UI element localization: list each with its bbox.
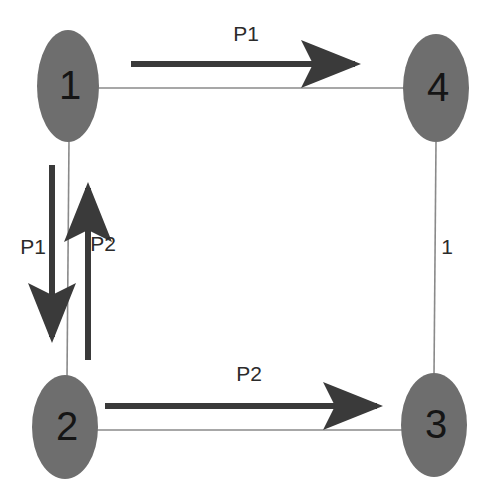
node-4[interactable]: 4: [403, 34, 469, 142]
path-label-p1-top: P1: [233, 22, 259, 45]
node-1-label: 1: [59, 63, 81, 107]
node-4-label: 4: [427, 65, 449, 109]
node-3-label: 3: [425, 402, 447, 446]
path-label-p2-bottom: P2: [236, 362, 262, 385]
network-diagram-svg: 1 4 2 3 P1 P1 P2 P2 1: [0, 0, 491, 502]
diagram-canvas: 1 4 2 3 P1 P1 P2 P2 1: [0, 0, 491, 502]
node-1[interactable]: 1: [37, 30, 99, 142]
node-2-label: 2: [56, 404, 78, 448]
node-3[interactable]: 3: [401, 373, 467, 477]
edge-1-to-2: [67, 140, 69, 378]
edge-weight-label-3-4: 1: [441, 235, 453, 258]
node-2[interactable]: 2: [32, 375, 98, 479]
path-label-p2-left: P2: [90, 232, 116, 255]
edge-3-to-4: [434, 142, 436, 375]
path-label-p1-left: P1: [20, 235, 46, 258]
